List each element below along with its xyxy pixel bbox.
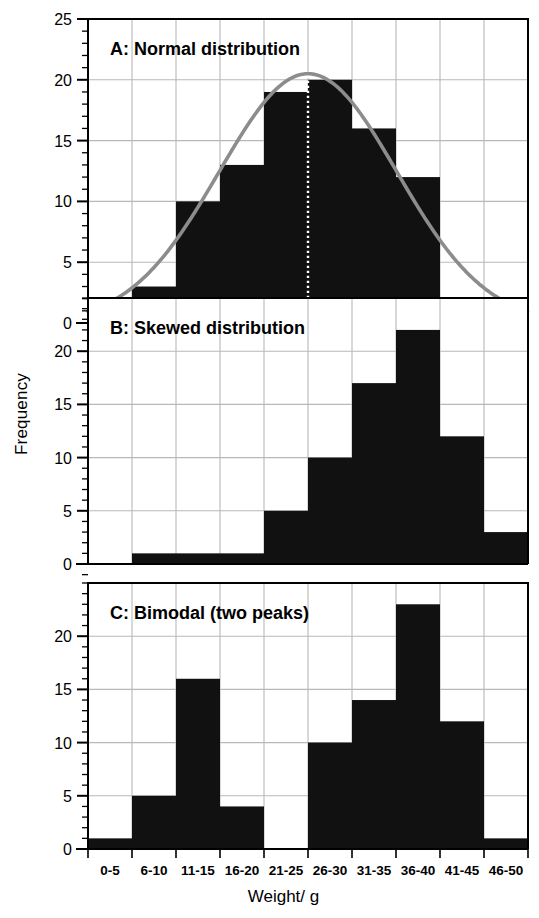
x-axis-label: Weight/ g	[14, 887, 539, 907]
x-axis-bin-label: 6-10	[140, 863, 167, 878]
y-axis-tick-label: 15	[54, 133, 72, 150]
histogram-bar	[264, 92, 308, 323]
y-axis-tick-label: 20	[54, 628, 72, 645]
histogram-bar	[352, 700, 396, 849]
x-axis-bin-label: 16-20	[225, 863, 260, 878]
histogram-bar	[396, 604, 440, 849]
histogram-bar	[132, 796, 176, 849]
x-axis-bin-label: 41-45	[445, 863, 480, 878]
histogram-bar	[484, 532, 528, 564]
histogram-bar	[176, 679, 220, 849]
y-axis-tick-label: 15	[54, 681, 72, 698]
y-axis-tick-label: 5	[63, 788, 72, 805]
histograms-svg: x̄0510152025A: Normal distribution051015…	[0, 0, 539, 918]
x-axis-bin-label: 26-30	[313, 863, 348, 878]
y-axis-tick-label: 5	[63, 254, 72, 271]
histogram-bar	[176, 553, 220, 564]
histogram-bar	[132, 553, 176, 564]
y-axis-tick-label: 20	[54, 343, 72, 360]
y-axis-tick-label: 20	[54, 72, 72, 89]
panel-title-b: B: Skewed distribution	[110, 318, 305, 338]
panel-b: 05101520B: Skewed distribution	[54, 298, 528, 575]
y-axis-tick-label: 25	[54, 11, 72, 28]
histogram-bar	[220, 806, 264, 849]
panel-c: 05101520C: Bimodal (two peaks)	[54, 583, 528, 858]
histogram-bar	[352, 383, 396, 564]
x-axis-bin-label: 46-50	[489, 863, 524, 878]
panel-title-a: A: Normal distribution	[110, 39, 300, 59]
histogram-bar	[308, 743, 352, 849]
histogram-bar	[308, 458, 352, 564]
panel-title-c: C: Bimodal (two peaks)	[110, 603, 309, 623]
x-axis-bin-label: 36-40	[401, 863, 436, 878]
y-axis-tick-label: 10	[54, 735, 72, 752]
histogram-bar	[440, 721, 484, 849]
x-axis-bin-label: 11-15	[181, 863, 215, 878]
histogram-bar	[484, 838, 528, 849]
y-axis-tick-label: 10	[54, 193, 72, 210]
histogram-bar	[88, 838, 132, 849]
histogram-bar	[308, 80, 352, 323]
histogram-bar	[396, 330, 440, 564]
y-axis-tick-label: 0	[63, 841, 72, 858]
y-axis-tick-label: 10	[54, 450, 72, 467]
x-axis-group: 0-56-1011-1516-2021-2526-3031-3536-4041-…	[88, 849, 528, 878]
histogram-bar	[440, 436, 484, 564]
x-axis-bin-label: 31-35	[357, 863, 392, 878]
histogram-bar	[220, 553, 264, 564]
y-axis-tick-label: 0	[63, 556, 72, 573]
y-axis-tick-label: 5	[63, 503, 72, 520]
y-axis-tick-label: 15	[54, 396, 72, 413]
figure-histograms-panel: Frequency x̄0510152025A: Normal distribu…	[0, 0, 539, 918]
y-axis-tick-label: 0	[63, 315, 72, 332]
histogram-bar	[264, 511, 308, 564]
x-axis-bin-label: 21-25	[269, 863, 304, 878]
x-axis-bin-label: 0-5	[100, 863, 120, 878]
